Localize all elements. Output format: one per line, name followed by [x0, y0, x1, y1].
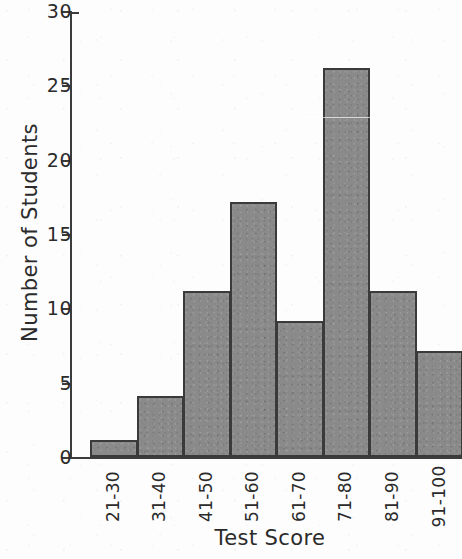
x-axis-tick-label-text: 31-40	[151, 471, 168, 522]
x-axis-tick-label: 51-60	[230, 462, 276, 524]
bar	[183, 291, 231, 457]
x-axis-tick-labels: 21-3031-4041-5051-6061-7071-8081-9091-10…	[90, 462, 462, 524]
x-axis-tick-label: 81-90	[369, 462, 415, 524]
bar	[137, 396, 185, 457]
bar	[369, 291, 417, 457]
bar	[276, 321, 324, 457]
x-axis-title: Test Score	[160, 528, 380, 549]
y-axis-tick-label: 0	[26, 448, 72, 467]
x-axis-tick-label-text: 41-50	[198, 471, 215, 522]
x-axis-tick-label: 61-70	[276, 462, 322, 524]
x-axis-tick-label-text: 51-60	[244, 471, 261, 522]
bar	[416, 351, 462, 457]
x-axis-tick-label: 71-80	[323, 462, 369, 524]
y-axis-title: Number of Students	[20, 93, 41, 373]
x-axis-tick-label: 21-30	[90, 462, 136, 524]
x-axis-tick-label-text: 81-90	[384, 471, 401, 522]
bar	[230, 202, 278, 457]
x-axis-tick-label: 31-40	[137, 462, 183, 524]
x-axis-tick-label: 41-50	[183, 462, 229, 524]
bar	[90, 440, 138, 457]
y-axis-tick-label: 30	[26, 2, 72, 21]
x-axis-tick-label-text: 21-30	[105, 471, 122, 522]
x-axis-tick-label-text: 91-100	[430, 465, 447, 527]
y-axis-tick-label: 5	[26, 374, 72, 393]
x-axis-tick-label-text: 61-70	[291, 471, 308, 522]
bar	[323, 68, 371, 457]
bar-series	[90, 0, 462, 459]
plot-area: 051015202530 21-3031-4041-5051-6061-7071…	[0, 0, 462, 559]
x-axis-tick-label: 91-100	[416, 462, 462, 524]
histogram-figure: 051015202530 21-3031-4041-5051-6061-7071…	[0, 0, 462, 559]
x-axis-tick-label-text: 71-80	[337, 471, 354, 522]
